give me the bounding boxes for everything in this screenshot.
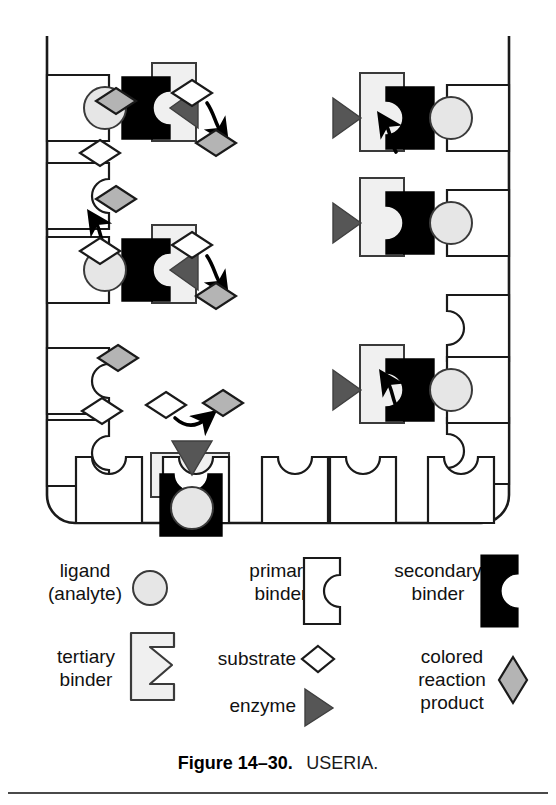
legend-label-secondary-line1: secondary — [394, 560, 482, 581]
bracket-icon — [131, 633, 174, 700]
circle-icon — [133, 571, 167, 605]
ligand — [171, 487, 213, 529]
legend-label-product-line2: reaction — [418, 669, 486, 690]
ligand — [430, 369, 472, 411]
legend-label-ligand-line1: ligand — [60, 560, 111, 581]
figure-caption: Figure 14–30. USERIA. — [178, 753, 379, 773]
legend-label-product-line1: colored — [421, 646, 483, 667]
legend-label-tertiary-line2: binder — [60, 669, 113, 690]
caption-number: Figure 14–30. — [178, 753, 293, 773]
legend-label-enzyme: enzyme — [229, 695, 296, 716]
legend-label-secondary-line2: binder — [412, 583, 465, 604]
legend-label-ligand-line2: (analyte) — [48, 583, 122, 604]
ligand — [430, 202, 472, 244]
legend-label-primary-line2: binder — [255, 583, 308, 604]
complex-bottom — [151, 441, 229, 536]
legend-label-product-line3: product — [420, 692, 484, 713]
ligand — [430, 97, 472, 139]
svg-text:Figure 14–30. USERIA.: Figure 14–30. USERIA. — [178, 753, 379, 773]
figure-root: ligand (analyte) primary binder secondar… — [0, 0, 556, 805]
caption-text: USERIA. — [306, 753, 378, 773]
legend-label-tertiary-line1: tertiary — [57, 646, 116, 667]
useria-figure: ligand (analyte) primary binder secondar… — [0, 0, 556, 805]
legend-label-substrate: substrate — [218, 648, 296, 669]
